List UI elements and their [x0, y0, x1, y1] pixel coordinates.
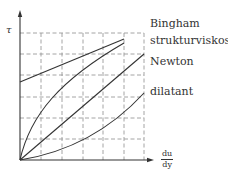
- curves: [20, 39, 144, 160]
- x-axis-label: du dy: [161, 150, 173, 169]
- grid: [20, 33, 144, 160]
- label-newton: Newton: [150, 56, 194, 67]
- curve-newton: [20, 54, 144, 160]
- label-dilatant: dilatant: [150, 86, 193, 97]
- y-axis-label: τ: [6, 24, 12, 35]
- label-bingham: Bingham: [150, 18, 200, 29]
- label-strukturviskos: strukturviskos: [150, 35, 228, 46]
- curve-dilatant: [20, 93, 144, 160]
- x-axis-label-denominator: dy: [161, 160, 173, 169]
- y-axis-arrow-icon: [18, 10, 22, 17]
- x-axis-arrow-icon: [147, 158, 154, 162]
- x-axis-label-numerator: du: [161, 150, 173, 160]
- curve-bingham: [20, 39, 124, 82]
